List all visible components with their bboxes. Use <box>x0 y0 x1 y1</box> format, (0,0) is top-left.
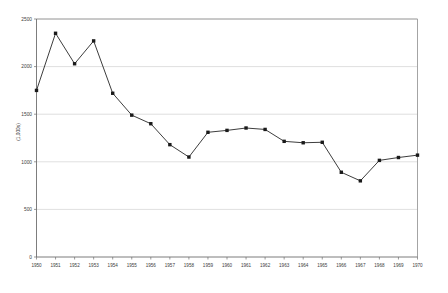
y-tick-label-0: 0 <box>29 255 32 260</box>
data-point-1957 <box>168 143 171 146</box>
x-tick-label-1950: 1950 <box>31 263 42 268</box>
data-point-1960 <box>225 129 228 132</box>
x-tick-label-1962: 1962 <box>260 263 271 268</box>
data-point-1952 <box>73 62 76 65</box>
y-axis-title-text: (1,000s) <box>16 123 21 141</box>
chart-background <box>0 0 448 293</box>
data-point-1951 <box>54 32 57 35</box>
x-tick-label-1969: 1969 <box>393 263 404 268</box>
x-tick-label-1955: 1955 <box>127 263 138 268</box>
chart-container: 05001000150020002500 1950195119521953195… <box>0 0 448 293</box>
x-tick-label-1951: 1951 <box>50 263 61 268</box>
x-tick-label-1961: 1961 <box>241 263 252 268</box>
y-tick-label-2500: 2500 <box>21 17 32 22</box>
data-point-1962 <box>263 128 266 131</box>
y-tick-label-500: 500 <box>24 207 32 212</box>
data-point-1968 <box>378 159 381 162</box>
x-tick-label-1967: 1967 <box>355 263 366 268</box>
x-tick-label-1970: 1970 <box>412 263 423 268</box>
data-point-1950 <box>35 89 38 92</box>
x-tick-label-1957: 1957 <box>165 263 176 268</box>
x-tick-label-1953: 1953 <box>89 263 100 268</box>
x-tick-label-1958: 1958 <box>184 263 195 268</box>
x-tick-label-1959: 1959 <box>203 263 214 268</box>
data-point-1961 <box>244 126 247 129</box>
y-tick-label-2000: 2000 <box>21 64 32 69</box>
data-point-1969 <box>397 156 400 159</box>
y-tick-label-1000: 1000 <box>21 160 32 165</box>
x-tick-label-1960: 1960 <box>222 263 233 268</box>
y-tick-label-1500: 1500 <box>21 112 32 117</box>
data-point-1964 <box>302 141 305 144</box>
data-point-1963 <box>282 140 285 143</box>
data-point-1956 <box>149 122 152 125</box>
data-point-1970 <box>416 153 419 156</box>
x-tick-label-1964: 1964 <box>298 263 309 268</box>
x-tick-label-1952: 1952 <box>69 263 80 268</box>
data-point-1955 <box>130 113 133 116</box>
data-point-1959 <box>206 131 209 134</box>
x-tick-label-1963: 1963 <box>279 263 290 268</box>
x-tick-label-1954: 1954 <box>108 263 119 268</box>
data-point-1953 <box>92 39 95 42</box>
x-axis <box>37 257 418 260</box>
x-axis-tick-labels: 1950195119521953195419551956195719581959… <box>31 263 423 268</box>
data-point-1954 <box>111 92 114 95</box>
x-tick-label-1956: 1956 <box>146 263 157 268</box>
y-axis-title: (1,000s) <box>16 123 21 141</box>
x-tick-label-1968: 1968 <box>374 263 385 268</box>
x-tick-label-1965: 1965 <box>317 263 328 268</box>
data-point-1965 <box>321 141 324 144</box>
line-chart: 05001000150020002500 1950195119521953195… <box>0 0 448 293</box>
data-point-1967 <box>359 179 362 182</box>
data-point-1966 <box>340 171 343 174</box>
data-point-1958 <box>187 155 190 158</box>
x-tick-label-1966: 1966 <box>336 263 347 268</box>
